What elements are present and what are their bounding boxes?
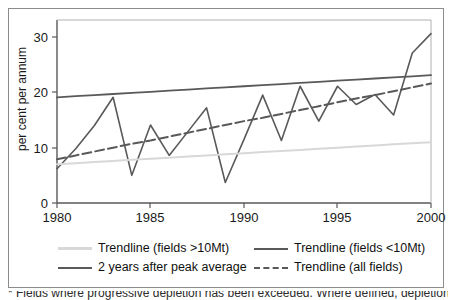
x-tick-marks: [57, 203, 431, 208]
legend-item-two-years-after-peak-average: 2 years after peak average: [58, 259, 248, 276]
x-tick-label-1995: 1995: [307, 211, 367, 224]
y-tick-label-20: 20: [14, 86, 48, 99]
legend-label: Trendline (all fields): [294, 261, 403, 274]
x-tick-label-1990: 1990: [214, 211, 274, 224]
y-tick-label-30: 30: [14, 31, 48, 44]
legend-swatch-line-icon: [58, 244, 92, 254]
legend-label: Trendline (fields >10Mt): [98, 242, 229, 255]
x-tick-label-1985: 1985: [120, 211, 180, 224]
legend-item-trendline-fields-gt10mt: Trendline (fields >10Mt): [58, 240, 248, 257]
y-tick-marks: [52, 37, 57, 203]
axes-group: [57, 20, 431, 203]
chart-legend: Trendline (fields >10Mt) Trendline (fiel…: [58, 240, 434, 280]
data-series-group: [57, 34, 431, 183]
y-tick-label-0: 0: [14, 197, 48, 210]
legend-item-trendline-all-fields: Trendline (all fields): [254, 259, 434, 276]
legend-swatch-line-icon: [254, 244, 288, 254]
legend-item-trendline-fields-lt10mt: Trendline (fields <10Mt): [254, 240, 434, 257]
caption-text: * Fields where progressive depletion has…: [8, 291, 448, 300]
figure-root: per cent per annum 30 20 10 0 1980 1985 …: [0, 0, 454, 300]
x-tick-label-1980: 1980: [27, 211, 87, 224]
legend-label: Trendline (fields <10Mt): [294, 242, 425, 255]
legend-swatch-line-icon: [58, 263, 92, 273]
series-line-trendline-fields-10mt: [57, 142, 431, 164]
figure-caption-clipped: * Fields where progressive depletion has…: [8, 291, 448, 300]
legend-swatch-dashed-line-icon: [254, 263, 288, 273]
x-tick-label-2000: 2000: [401, 211, 454, 224]
y-tick-label-10: 10: [14, 142, 48, 155]
legend-label: 2 years after peak average: [98, 261, 247, 274]
